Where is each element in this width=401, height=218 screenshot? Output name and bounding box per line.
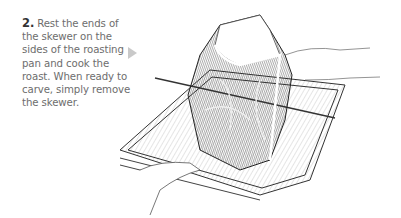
hand-left xyxy=(140,162,200,215)
step-text: Rest the ends of the skewer on the sides… xyxy=(22,18,130,108)
roast-illustration xyxy=(120,0,401,218)
step-number: 2. xyxy=(22,16,34,30)
hand-right xyxy=(285,48,380,80)
